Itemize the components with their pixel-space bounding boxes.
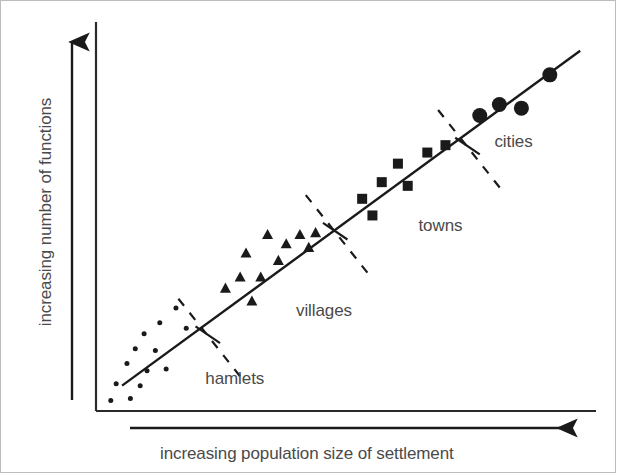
data-point-villages bbox=[241, 247, 252, 257]
x-axis-label: increasing population size of settlement bbox=[160, 444, 454, 464]
data-point-towns bbox=[403, 181, 413, 191]
data-point-villages bbox=[294, 229, 305, 239]
data-point-hamlets bbox=[142, 331, 147, 336]
data-point-hamlets bbox=[114, 381, 119, 386]
data-point-cities bbox=[542, 67, 557, 82]
y-axis-label: increasing number of functions bbox=[36, 62, 56, 362]
data-point-towns bbox=[357, 194, 367, 204]
data-point-towns bbox=[440, 140, 450, 150]
category-dividers bbox=[178, 110, 504, 382]
series-hamlets bbox=[108, 305, 188, 403]
data-point-villages bbox=[246, 295, 257, 305]
series-label-towns: towns bbox=[419, 216, 463, 236]
settlement-hierarchy-figure: increasing number of functions increasin… bbox=[0, 0, 618, 475]
divider-tick-hamlets bbox=[196, 326, 221, 343]
data-point-hamlets bbox=[108, 398, 113, 403]
trend-line-segment bbox=[122, 51, 580, 386]
data-point-villages bbox=[281, 238, 292, 248]
plot-axes bbox=[96, 22, 596, 411]
series-villages bbox=[220, 227, 321, 306]
data-point-hamlets bbox=[184, 326, 189, 331]
data-point-villages bbox=[310, 227, 321, 237]
data-point-villages bbox=[235, 271, 246, 281]
data-point-hamlets bbox=[145, 368, 150, 373]
data-point-hamlets bbox=[128, 396, 133, 401]
data-point-hamlets bbox=[173, 305, 178, 310]
data-point-villages bbox=[262, 229, 273, 239]
data-point-hamlets bbox=[164, 367, 169, 372]
data-point-hamlets bbox=[124, 361, 129, 366]
data-point-hamlets bbox=[157, 320, 162, 325]
trend-line bbox=[122, 51, 580, 386]
data-point-villages bbox=[273, 255, 284, 265]
data-point-hamlets bbox=[153, 348, 158, 353]
series-label-cities: cities bbox=[494, 132, 532, 152]
data-point-towns bbox=[422, 148, 432, 158]
series-label-villages: villages bbox=[296, 301, 352, 321]
data-point-cities bbox=[472, 108, 487, 123]
data-point-towns bbox=[377, 177, 387, 187]
data-point-towns bbox=[367, 210, 377, 220]
data-point-villages bbox=[220, 283, 231, 293]
data-point-towns bbox=[393, 159, 403, 169]
data-point-cities bbox=[514, 101, 529, 116]
data-point-cities bbox=[492, 97, 507, 112]
scatter-plot-canvas bbox=[0, 0, 618, 475]
data-point-hamlets bbox=[138, 383, 143, 388]
data-point-villages bbox=[255, 271, 266, 281]
divider-tick-towns bbox=[455, 138, 480, 155]
series-cities bbox=[472, 67, 557, 123]
data-point-hamlets bbox=[133, 346, 138, 351]
series-label-hamlets: hamlets bbox=[205, 369, 264, 389]
